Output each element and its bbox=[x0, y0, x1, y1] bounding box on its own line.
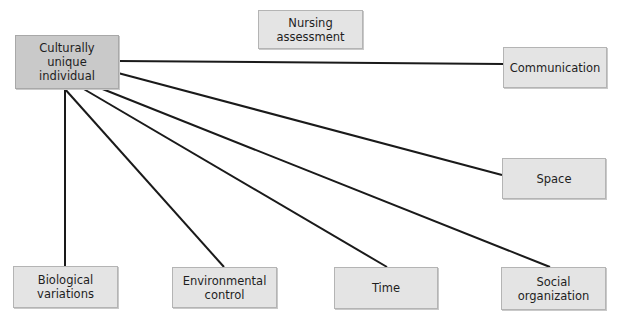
edge-to-environmental-control bbox=[64, 88, 224, 267]
edge-to-space bbox=[118, 73, 502, 175]
node-space: Space bbox=[502, 158, 606, 199]
node-culturally-unique-individual: Culturally unique individual bbox=[15, 35, 119, 89]
node-communication: Communication bbox=[503, 47, 607, 88]
edge-to-social-organization bbox=[100, 88, 550, 267]
edge-to-communication bbox=[118, 61, 503, 64]
node-social-organization: Social organization bbox=[501, 267, 606, 310]
node-environmental-control: Environmental control bbox=[172, 267, 277, 308]
node-nursing-assessment: Nursing assessment bbox=[258, 10, 363, 49]
node-biological-variations: Biological variations bbox=[13, 266, 118, 308]
node-time: Time bbox=[334, 267, 438, 309]
edge-to-time bbox=[82, 88, 387, 267]
